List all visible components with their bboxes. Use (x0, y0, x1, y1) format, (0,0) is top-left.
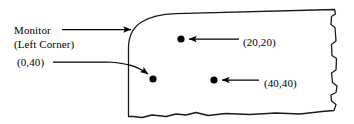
point-0-40-label: (0,40) (17, 56, 44, 69)
point-0-40-dot (149, 75, 156, 82)
left-corner-label: (Left Corner) (14, 38, 74, 51)
monitor-outline-shape (129, 10, 338, 118)
point-40-40-dot (210, 76, 217, 83)
monitor-label: Monitor (14, 24, 51, 37)
point-40-40-label: (40,40) (264, 77, 297, 90)
diagram-canvas (0, 0, 354, 124)
point-20-20-dot (177, 35, 184, 42)
point-20-20-label: (20,20) (243, 36, 276, 49)
monitor-coordinate-diagram: Monitor (Left Corner) (0,40) (20,20) (40… (0, 0, 354, 124)
